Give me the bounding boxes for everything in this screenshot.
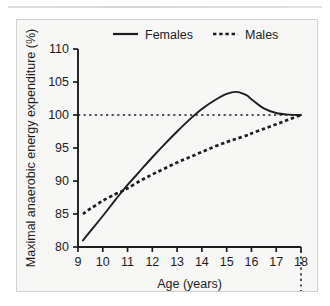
x-tick-label-18: 18	[294, 255, 308, 269]
series-line-females	[83, 92, 301, 241]
x-tick-label-14: 14	[195, 255, 209, 269]
y-tick-label-85: 85	[55, 207, 69, 221]
x-tick-label-11: 11	[121, 255, 134, 269]
x-tick-label-13: 13	[170, 255, 184, 269]
top-divider-rule	[8, 6, 322, 8]
x-tick-label-9: 9	[75, 255, 82, 269]
x-tick-label-15: 15	[220, 255, 234, 269]
y-tick-label-80: 80	[55, 240, 69, 254]
figure-panel: 808590951001051109101112131415161718Fema…	[16, 19, 318, 292]
y-tick-label-100: 100	[48, 108, 69, 122]
y-tick-label-90: 90	[55, 174, 69, 188]
x-tick-label-12: 12	[145, 255, 159, 269]
y-axis-title: Maximal anaerobic energy expenditure (%)	[24, 29, 38, 267]
y-tick-label-110: 110	[49, 42, 69, 56]
legend-label-females: Females	[145, 28, 193, 42]
legend-label-males: Males	[245, 28, 278, 42]
y-tick-label-105: 105	[48, 75, 69, 89]
x-tick-label-17: 17	[269, 255, 283, 269]
x-tick-label-10: 10	[96, 255, 110, 269]
line-chart: 808590951001051109101112131415161718Fema…	[17, 20, 317, 291]
x-tick-label-16: 16	[244, 255, 258, 269]
x-axis-title: Age (years)	[157, 277, 222, 291]
y-tick-label-95: 95	[55, 141, 69, 155]
